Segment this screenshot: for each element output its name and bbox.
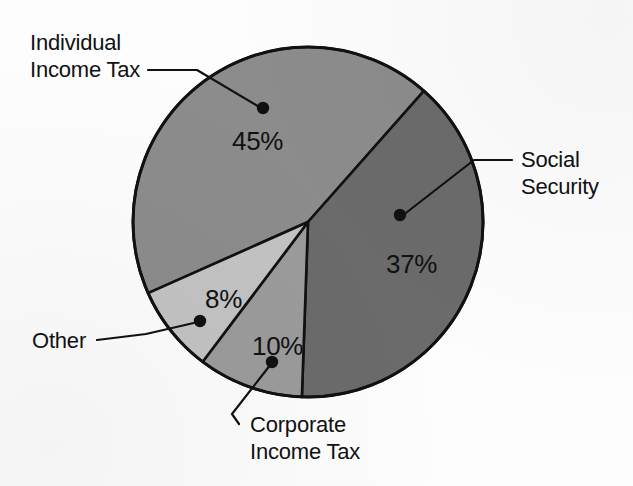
pie-chart-svg: 45%IndividualIncome Tax37%SocialSecurity…	[0, 0, 633, 486]
slice-category-label-individual-income-tax: IndividualIncome Tax	[30, 30, 140, 82]
label-line: Individual	[30, 30, 121, 55]
slice-value-label-corporate-income-tax: 10%	[252, 331, 303, 361]
slice-category-label-corporate-income-tax: CorporateIncome Tax	[250, 412, 360, 464]
leader-dot-social-security	[394, 209, 406, 221]
slice-value-label-social-security: 37%	[386, 249, 437, 279]
label-line: Corporate	[250, 412, 346, 437]
slice-category-label-other: Other	[32, 328, 86, 353]
slice-value-label-individual-income-tax: 45%	[232, 126, 283, 156]
leader-dot-other	[194, 315, 206, 327]
label-line: Other	[32, 328, 86, 353]
slice-category-label-social-security: SocialSecurity	[521, 147, 599, 199]
label-line: Social	[521, 147, 580, 172]
label-line: Income Tax	[250, 439, 360, 464]
label-line: Income Tax	[30, 57, 140, 82]
pie-slices-group	[133, 47, 483, 397]
pie-chart-figure: 45%IndividualIncome Tax37%SocialSecurity…	[0, 0, 633, 486]
slice-value-label-other: 8%	[205, 284, 242, 314]
leader-dot-individual-income-tax	[257, 102, 269, 114]
leader-dot-corporate-income-tax	[266, 356, 278, 368]
label-line: Security	[521, 174, 599, 199]
